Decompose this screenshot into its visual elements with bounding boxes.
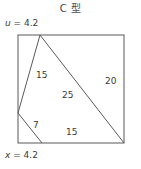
edge-label-center-diagonal: 25 — [62, 90, 73, 100]
diagram-canvas — [0, 0, 141, 169]
geometry-figure: C 型 u = 4.2 15 25 20 7 15 x = 4.2 — [0, 0, 141, 169]
axis-label-x: x = 4.2 — [5, 150, 38, 161]
edge-label-upper-left: 15 — [36, 70, 47, 80]
edge-label-right-side: 20 — [105, 76, 116, 86]
axis-label-x-value: 4.2 — [24, 150, 38, 160]
edge-label-lower-left: 7 — [33, 120, 39, 130]
segment-apex-to-bottom-right — [40, 35, 124, 143]
axis-label-x-equals: = — [10, 150, 23, 160]
edge-label-bottom-side: 15 — [66, 127, 77, 137]
